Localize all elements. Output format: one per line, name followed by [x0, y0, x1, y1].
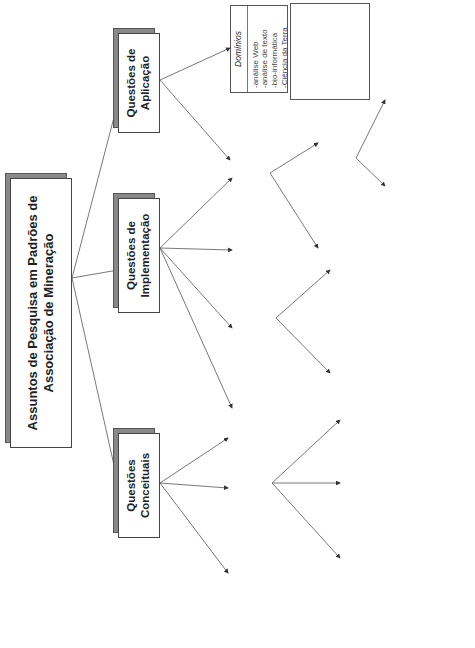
other-problems-box	[290, 3, 370, 100]
diagram-canvas: Assuntos de Pesquisa em Padrões de Assoc…	[0, 0, 475, 648]
domains-title: Domínios	[231, 6, 248, 92]
list-item: análise Web	[251, 10, 261, 88]
conceptual-label: Questões Conceituais	[125, 434, 153, 537]
implementation-label: Questões de Implementação	[125, 199, 153, 312]
root-label: Assuntos de Pesquisa em Padrões de Assoc…	[25, 179, 56, 447]
conceptual-node: Questões Conceituais	[118, 433, 160, 538]
domains-box: Domínios análise Web análise de texto bi…	[230, 5, 288, 93]
root-node: Assuntos de Pesquisa em Padrões de Assoc…	[10, 178, 72, 448]
implementation-node: Questões de Implementação	[118, 198, 160, 313]
domains-list: análise Web análise de texto bio-informá…	[248, 6, 292, 92]
list-item: bio-informática	[270, 10, 280, 88]
list-item: análise de texto	[260, 10, 270, 88]
application-node: Questões de Aplicação	[118, 33, 160, 133]
list-item: Ciência da Terra	[280, 10, 290, 88]
application-label: Questões de Aplicação	[125, 34, 153, 132]
